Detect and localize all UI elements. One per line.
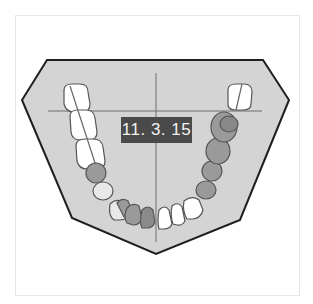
- dental-arch-diagram: [0, 0, 313, 304]
- date-label: 11. 3. 15: [121, 117, 192, 143]
- right-molar-white: [228, 84, 252, 110]
